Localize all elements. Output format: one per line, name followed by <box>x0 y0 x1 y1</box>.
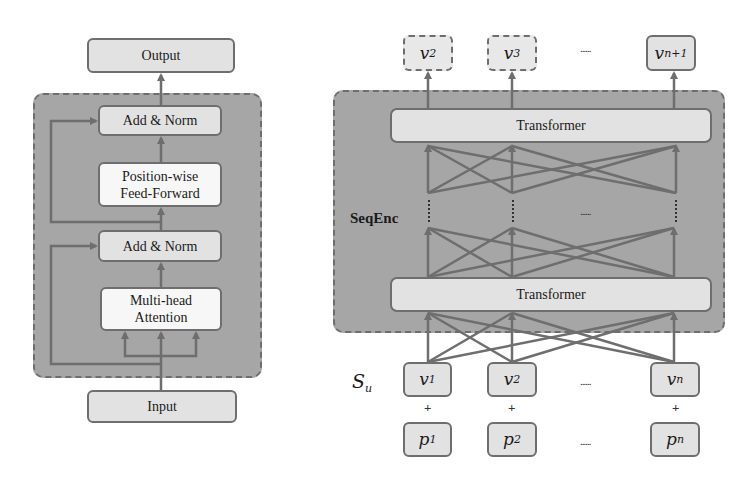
item-v2-box: v2 <box>487 362 537 397</box>
feed-forward-label-line1: Position-wise <box>122 168 198 185</box>
position-pn-box: pn <box>650 422 700 457</box>
transformer-bottom-box: Transformer <box>390 277 712 312</box>
position-p1-sub: 1 <box>429 431 436 448</box>
sequence-label-sub: u <box>365 382 372 395</box>
output-v3-sub: 3 <box>513 45 520 62</box>
plus-sign-2: + <box>508 400 515 416</box>
plus-sign-n: + <box>672 400 679 416</box>
position-ellipsis: ...... <box>580 435 591 447</box>
item-v1-sub: 1 <box>429 371 436 388</box>
output-box: Output <box>87 38 235 73</box>
item-v1-base: v <box>419 371 429 388</box>
item-v2-sub: 2 <box>513 371 520 388</box>
transformer-top-label: Transformer <box>516 117 585 134</box>
input-box: Input <box>87 390 237 423</box>
attention-label-line2: Attention <box>135 309 188 326</box>
output-vn1-sub: n+1 <box>664 45 687 62</box>
plus-sign-1: + <box>424 400 431 416</box>
position-p1-box: p1 <box>403 422 452 457</box>
item-vn-sub: n <box>676 371 683 388</box>
output-vn1-box: vn+1 <box>646 35 696 71</box>
output-label: Output <box>142 47 181 64</box>
feed-forward-label-line2: Feed-Forward <box>120 185 199 202</box>
layer-ellipsis: ...... <box>580 205 591 217</box>
output-v2-base: v <box>420 45 430 62</box>
item-ellipsis: ...... <box>580 375 591 387</box>
add-norm-top-box: Add & Norm <box>98 105 222 136</box>
item-v2-base: v <box>504 371 514 388</box>
item-v1-box: v1 <box>403 362 452 397</box>
seqenc-label: SeqEnc <box>350 210 398 227</box>
output-vn1-base: v <box>655 45 665 62</box>
output-v2-sub: 2 <box>429 45 436 62</box>
attention-label-line1: Multi-head <box>130 292 192 309</box>
add-norm-bottom-box: Add & Norm <box>98 230 222 262</box>
position-p1-base: p <box>419 431 430 448</box>
output-ellipsis: ...... <box>580 42 591 54</box>
position-p2-base: p <box>503 431 514 448</box>
multi-head-attention-box: Multi-head Attention <box>100 287 222 331</box>
position-pn-sub: n <box>677 431 684 448</box>
transformer-bottom-label: Transformer <box>516 286 585 303</box>
output-v3-box: v3 <box>487 35 537 71</box>
position-pn-base: p <box>666 431 677 448</box>
sequence-label-base: S <box>352 370 365 392</box>
item-vn-box: vn <box>650 362 700 397</box>
position-p2-sub: 2 <box>514 431 521 448</box>
sequence-label: Su <box>352 370 372 395</box>
add-norm-top-label: Add & Norm <box>123 112 198 129</box>
item-vn-base: v <box>667 371 677 388</box>
add-norm-bottom-label: Add & Norm <box>123 238 198 255</box>
input-label: Input <box>147 398 177 415</box>
output-v2-box: v2 <box>403 35 453 71</box>
transformer-top-box: Transformer <box>390 108 712 143</box>
output-v3-base: v <box>504 45 514 62</box>
position-p2-box: p2 <box>487 422 537 457</box>
feed-forward-box: Position-wise Feed-Forward <box>98 162 222 207</box>
